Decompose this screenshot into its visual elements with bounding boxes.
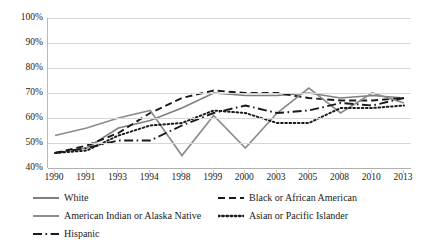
y-axis-tick-label: 80%	[26, 63, 43, 73]
x-axis-tick	[149, 170, 150, 173]
x-axis-tick	[213, 170, 214, 173]
dashed-black-line-icon	[218, 193, 244, 203]
legend-item-label: White	[64, 192, 88, 204]
x-axis-tick-label: 1990	[45, 172, 64, 183]
x-axis-tick	[244, 170, 245, 173]
x-axis-labels: 1990199119931994199819992000200320052008…	[47, 170, 410, 190]
y-axis-tick-label: 60%	[26, 113, 43, 123]
x-axis-tick-label: 2005	[298, 172, 317, 183]
plot-wrapper: 40%50%60%70%80%90%100% 19901991199319941…	[0, 0, 422, 190]
gridline	[48, 168, 411, 169]
y-axis-labels: 40%50%60%70%80%90%100%	[0, 0, 46, 190]
gridline	[48, 118, 411, 119]
x-axis-tick-label: 1999	[203, 172, 222, 183]
x-axis-tick-label: 2010	[362, 172, 381, 183]
solid-gray-line-icon	[33, 211, 59, 221]
chart-legend: WhiteBlack or African AmericanAmerican I…	[0, 192, 422, 248]
x-axis-tick-label: 2003	[267, 172, 286, 183]
gridline	[48, 143, 411, 144]
x-axis-tick-label: 2008	[330, 172, 349, 183]
legend-item[interactable]: Hispanic	[33, 228, 100, 240]
y-axis-tick-label: 40%	[26, 163, 43, 173]
legend-item[interactable]: White	[33, 192, 88, 204]
y-axis-tick-label: 50%	[26, 138, 43, 148]
y-axis-tick-label: 90%	[26, 38, 43, 48]
x-axis-tick-label: 2000	[235, 172, 254, 183]
dash-dot-black-line-icon	[33, 229, 59, 239]
solid-gray-line-icon	[33, 193, 59, 203]
gridline	[48, 93, 411, 94]
legend-item[interactable]: American Indian or Alaska Native	[33, 210, 201, 222]
legend-item-label: Hispanic	[64, 228, 100, 240]
x-axis-tick-label: 1993	[108, 172, 127, 183]
x-axis-tick	[276, 170, 277, 173]
x-axis-tick-label: 1991	[76, 172, 95, 183]
x-axis-tick	[371, 170, 372, 173]
x-axis-tick	[54, 170, 55, 173]
y-axis-tick-label: 70%	[26, 88, 43, 98]
gridline	[48, 68, 411, 69]
x-axis-tick-label: 1998	[171, 172, 190, 183]
legend-item[interactable]: Black or African American	[218, 192, 357, 204]
legend-item[interactable]: Asian or Pacific Islander	[218, 210, 348, 222]
y-axis-tick-label: 100%	[21, 13, 43, 23]
x-axis-tick-label: 1994	[140, 172, 159, 183]
x-axis-tick	[340, 170, 341, 173]
x-axis-tick	[308, 170, 309, 173]
x-axis-tick-label: 2013	[394, 172, 413, 183]
series-line	[55, 106, 404, 154]
plot-area	[47, 18, 411, 168]
x-axis-tick	[86, 170, 87, 173]
legend-item-label: American Indian or Alaska Native	[64, 210, 201, 222]
legend-item-label: Asian or Pacific Islander	[249, 210, 348, 222]
gridline	[48, 18, 411, 19]
gridline	[48, 43, 411, 44]
legend-item-label: Black or African American	[249, 192, 357, 204]
x-axis-tick	[117, 170, 118, 173]
dotted-black-line-icon	[218, 211, 244, 221]
line-chart: 40%50%60%70%80%90%100% 19901991199319941…	[0, 0, 422, 248]
series-line	[55, 88, 404, 156]
x-axis-tick	[181, 170, 182, 173]
x-axis-tick	[403, 170, 404, 173]
